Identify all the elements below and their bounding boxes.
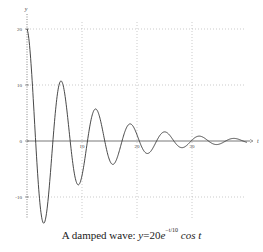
grid-lines: [27, 22, 246, 218]
y-tick-label: 10: [17, 83, 23, 88]
x-tick-label: 20: [135, 144, 141, 149]
y-tick-label: 20: [17, 27, 23, 32]
x-tick-label: 30: [190, 144, 196, 149]
formula-exponent: −t/10: [165, 227, 178, 233]
x-tick-label: 10: [80, 144, 86, 149]
y-tick-label: -10: [15, 195, 22, 200]
y-axis-label: y: [24, 6, 28, 12]
chart-caption: A damped wave: y=20e−t/10 cos t: [0, 229, 263, 241]
axes: [27, 14, 253, 218]
formula-tail: cos t: [181, 229, 201, 241]
formula-coef: =20: [143, 229, 160, 241]
x-axis-arrow-icon: [250, 140, 253, 143]
tick-labels: yt20100-10102030: [15, 6, 259, 200]
x-axis-label: t: [257, 138, 259, 144]
caption-prefix: A damped wave:: [62, 229, 139, 241]
y-tick-label: 0: [20, 139, 23, 144]
damped-wave-chart: yt20100-10102030: [0, 0, 263, 230]
